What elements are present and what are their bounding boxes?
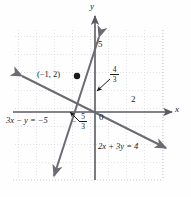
y-tick-5-label: 5 — [98, 40, 103, 49]
x-intercept-fraction-5-over-3: 5 3 — [79, 113, 87, 130]
grid-dotted — [13, 30, 163, 180]
graph-figure: x y 0 5 2 (−1, 2) 4 3 − 5 3 3x − y = −5 … — [0, 0, 191, 197]
y-axis-label: y — [90, 2, 94, 11]
solution-point-dot — [74, 73, 80, 79]
fraction-numerator: 5 — [79, 113, 87, 121]
x-intercept-minus-sign: − — [72, 117, 76, 126]
fraction-denominator: 3 — [110, 76, 119, 84]
coordinate-plane-svg — [0, 0, 191, 197]
y-intercept-fraction-4-over-3: 4 3 — [110, 66, 119, 83]
equation-label-line2: 2x + 3y = 4 — [98, 142, 138, 151]
equation-label-line1: 3x − y = −5 — [6, 116, 48, 125]
origin-label: 0 — [99, 113, 104, 122]
solution-point-label: (−1, 2) — [37, 70, 60, 79]
fraction-denominator: 3 — [79, 123, 87, 131]
x-tick-2-label: 2 — [131, 95, 136, 104]
x-axis-label: x — [175, 105, 179, 114]
fraction-numerator: 4 — [110, 66, 119, 74]
